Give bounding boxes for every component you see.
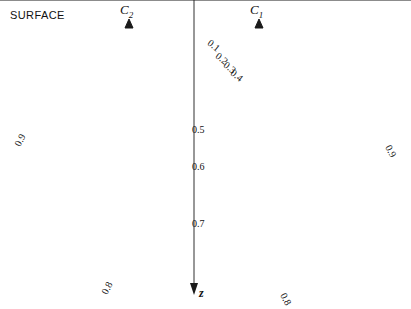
electrode-letter: C — [250, 2, 259, 17]
surface-label: SURFACE — [10, 9, 65, 21]
depth-axis-label: z — [199, 286, 204, 301]
electrode-subscript: 1 — [259, 10, 264, 20]
electrode-letter: C — [120, 2, 129, 17]
electrode-label-c1: C1 — [250, 2, 263, 20]
current-fraction-label: 0.5 — [192, 124, 205, 135]
current-fraction-label: 0.6 — [192, 161, 205, 172]
electrode-marker-c1 — [255, 19, 263, 28]
current-fraction-label: 0.7 — [192, 218, 205, 229]
electrode-subscript: 2 — [129, 10, 134, 20]
depth-axis-arrow — [190, 283, 198, 295]
electrode-marker-c2 — [125, 19, 133, 28]
figure-canvas: SURFACE C2 C1 z 0.10.20.30.40.50.60.70.8… — [0, 0, 411, 309]
electrode-label-c2: C2 — [120, 2, 133, 20]
